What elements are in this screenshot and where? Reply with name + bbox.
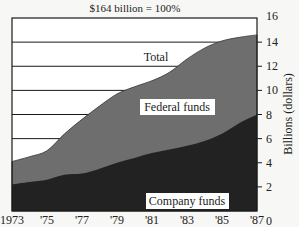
y-axis-label: Billions (dollars) bbox=[281, 73, 295, 155]
label-total: Total bbox=[140, 49, 171, 64]
x-tick-label: '85 bbox=[215, 213, 229, 227]
y-axis: 0246810121416 bbox=[257, 9, 278, 227]
y-tick-label: 2 bbox=[266, 180, 272, 194]
label-company-funds: Company funds bbox=[146, 193, 229, 209]
x-axis: 1973'75'77'79'81'83'85'87 bbox=[0, 213, 264, 227]
x-tick-label: '83 bbox=[180, 213, 194, 227]
x-tick-label: '77 bbox=[75, 213, 89, 227]
x-tick-label: '81 bbox=[145, 213, 159, 227]
x-tick-label: 1973 bbox=[0, 213, 24, 227]
y-tick-label: 12 bbox=[266, 59, 278, 73]
y-tick-label: 14 bbox=[266, 35, 278, 49]
svg-text:Total: Total bbox=[144, 50, 169, 64]
x-tick-label: '79 bbox=[110, 213, 124, 227]
y-tick-label: 6 bbox=[266, 132, 272, 146]
y-tick-label: 8 bbox=[266, 108, 272, 122]
rd-funding-chart: $164 billion = 100% 0246810121416 1973'7… bbox=[0, 0, 299, 227]
y-tick-label: 4 bbox=[266, 156, 272, 170]
x-tick-label: '87 bbox=[250, 213, 264, 227]
svg-text:Company funds: Company funds bbox=[149, 194, 226, 208]
label-federal-funds: Federal funds bbox=[140, 99, 215, 115]
y-tick-label: 10 bbox=[266, 83, 278, 97]
y-tick-label: 16 bbox=[266, 9, 278, 23]
chart-title: $164 billion = 100% bbox=[90, 2, 181, 14]
x-tick-label: '75 bbox=[40, 213, 54, 227]
svg-text:Federal funds: Federal funds bbox=[144, 100, 210, 114]
y-tick-label: 0 bbox=[266, 214, 272, 227]
